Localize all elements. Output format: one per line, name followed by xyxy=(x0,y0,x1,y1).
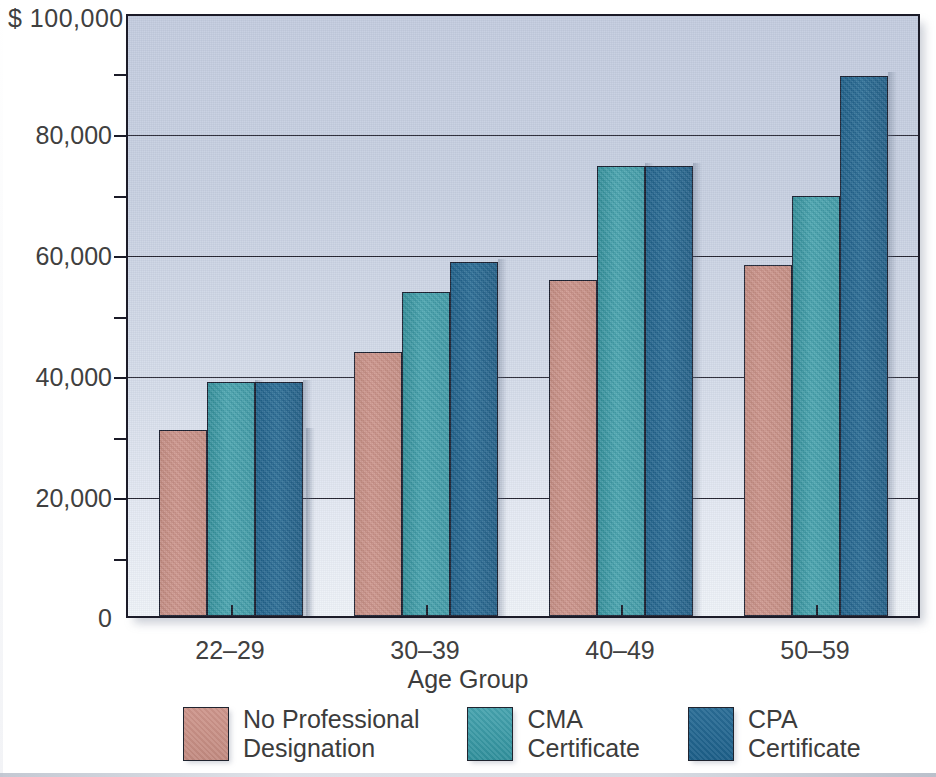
legend-label-line-2: Designation xyxy=(243,734,419,763)
legend-label-line-2: Certificate xyxy=(527,734,640,763)
legend-label-cpa-certificate: CPA Certificate xyxy=(748,705,861,763)
x-axis-title: Age Group xyxy=(0,665,936,694)
legend-item-no-professional-designation: No Professional Designation xyxy=(183,705,419,763)
bar-shadow xyxy=(693,163,702,616)
bar-22-29-no-professional-designation xyxy=(159,430,207,616)
legend-swatch-teal-icon xyxy=(467,707,513,761)
y-tick-label-0: 0 xyxy=(0,604,112,633)
bar-40-49-cma-certificate xyxy=(597,166,645,616)
y-tick-mark-40000 xyxy=(114,377,126,379)
x-tick-label-22-29: 22–29 xyxy=(195,636,265,665)
x-tick-mark xyxy=(816,605,818,616)
bar-40-49-no-professional-designation xyxy=(549,280,597,616)
page-edge-decoration xyxy=(0,773,936,777)
y-tick-label-80000: 80,000 xyxy=(0,121,112,150)
bar-50-59-cma-certificate xyxy=(792,196,840,616)
salary-by-age-bar-chart: $ 100,000 80,000 60,000 40,000 20,000 0 xyxy=(0,0,936,777)
legend-label-line-1: CPA xyxy=(748,705,861,734)
legend-item-cpa-certificate: CPA Certificate xyxy=(688,705,861,763)
bar-22-29-cpa-certificate xyxy=(255,382,303,616)
y-tick-mark-90000 xyxy=(114,74,126,76)
y-tick-label-40000: 40,000 xyxy=(0,363,112,392)
legend-label-line-1: CMA xyxy=(527,705,640,734)
bar-shadow xyxy=(306,428,315,616)
x-tick-label-50-59: 50–59 xyxy=(780,636,850,665)
y-axis-top-label: $ 100,000 xyxy=(8,4,124,33)
bar-50-59-cpa-certificate xyxy=(840,76,888,616)
bar-30-39-no-professional-designation xyxy=(354,352,402,616)
x-tick-label-40-49: 40–49 xyxy=(585,636,655,665)
bar-22-29-cma-certificate xyxy=(207,382,255,616)
x-tick-mark xyxy=(621,605,623,616)
y-tick-label-60000: 60,000 xyxy=(0,242,112,271)
bar-50-59-no-professional-designation xyxy=(744,265,792,616)
bar-30-39-cma-certificate xyxy=(402,292,450,616)
bar-40-49-cpa-certificate xyxy=(645,166,693,616)
y-tick-mark-30000 xyxy=(114,438,126,440)
y-tick-label-20000: 20,000 xyxy=(0,484,112,513)
legend-label-no-professional-designation: No Professional Designation xyxy=(243,705,419,763)
legend-label-cma-certificate: CMA Certificate xyxy=(527,705,640,763)
y-tick-mark-50000 xyxy=(114,317,126,319)
y-tick-mark-10000 xyxy=(114,559,126,561)
y-tick-mark-60000 xyxy=(114,256,126,258)
y-tick-mark-70000 xyxy=(114,196,126,198)
y-tick-mark-80000 xyxy=(114,135,126,137)
bar-30-39-cpa-certificate xyxy=(450,262,498,616)
bar-shadow xyxy=(498,259,507,616)
legend-label-line-2: Certificate xyxy=(748,734,861,763)
bar-shadow xyxy=(888,72,897,616)
legend-item-cma-certificate: CMA Certificate xyxy=(467,705,640,763)
legend-swatch-rose-icon xyxy=(183,707,229,761)
x-tick-mark xyxy=(231,605,233,616)
y-tick-mark-20000 xyxy=(114,498,126,500)
legend-label-line-1: No Professional xyxy=(243,705,419,734)
gridline-80000 xyxy=(128,135,918,136)
x-tick-label-30-39: 30–39 xyxy=(390,636,460,665)
x-tick-mark xyxy=(426,605,428,616)
plot-area xyxy=(126,14,920,618)
legend-swatch-blue-icon xyxy=(688,707,734,761)
chart-legend: No Professional Designation CMA Certific… xyxy=(183,705,861,763)
